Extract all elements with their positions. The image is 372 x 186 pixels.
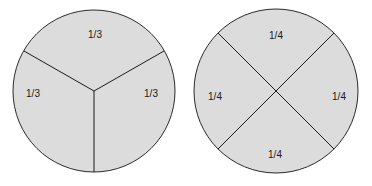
third-label-right: 1/3: [144, 88, 158, 99]
quarters-circle: 1/4 1/4 1/4 1/4: [194, 9, 358, 173]
quarter-label-right: 1/4: [332, 91, 346, 102]
quarter-label-bottom: 1/4: [268, 149, 282, 160]
quarter-label-left: 1/4: [208, 91, 222, 102]
third-label-left: 1/3: [26, 88, 40, 99]
fraction-circles-diagram: 1/3 1/3 1/3 1/4 1/4 1/4 1/4: [0, 0, 372, 186]
quarter-label-top: 1/4: [269, 30, 283, 41]
thirds-circle: 1/3 1/3 1/3: [13, 10, 175, 172]
third-label-top: 1/3: [88, 29, 102, 40]
